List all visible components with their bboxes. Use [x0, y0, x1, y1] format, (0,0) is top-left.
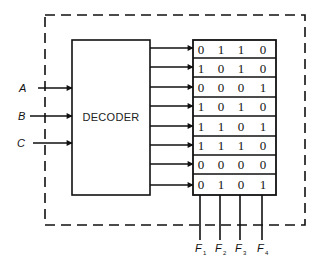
output-f3-letter: F — [235, 242, 243, 254]
rom-bit: 0 — [198, 80, 205, 95]
output-f1-letter: F — [195, 242, 203, 254]
output-f3: F 3 — [235, 242, 247, 256]
rom-bit: 0 — [260, 61, 267, 76]
rom-bit: 0 — [260, 99, 267, 114]
rom-bit: 0 — [198, 177, 205, 192]
rom-bit: 0 — [238, 157, 245, 172]
input-c-label: C — [17, 137, 25, 149]
decoder-rom-diagram: DECODER A B C — [0, 0, 323, 266]
output-f2-letter: F — [215, 242, 223, 254]
rom-bit: 0 — [260, 42, 267, 57]
rom-bit: 0 — [218, 61, 225, 76]
rom-bit: 0 — [218, 99, 225, 114]
input-b-label: B — [18, 110, 25, 122]
rom-bit: 0 — [260, 157, 267, 172]
rom-bit: 1 — [218, 138, 225, 153]
rom-bit: 1 — [198, 61, 205, 76]
output-f1: F 1 — [195, 242, 207, 256]
rom-bit: 1 — [198, 119, 205, 134]
output-f3-sub: 3 — [243, 250, 247, 256]
rom-bit: 0 — [198, 157, 205, 172]
rom-bit: 1 — [198, 99, 205, 114]
rom-bit: 1 — [238, 42, 245, 57]
rom-bit: 1 — [218, 119, 225, 134]
rom-bit: 1 — [198, 138, 205, 153]
rom-bit: 1 — [260, 177, 267, 192]
output-f2: F 2 — [215, 242, 227, 256]
decoder-output-lines — [150, 48, 193, 185]
rom-bit: 1 — [260, 80, 267, 95]
rom-bit: 1 — [218, 177, 225, 192]
rom-bit: 1 — [238, 99, 245, 114]
rom-bit: 0 — [218, 80, 225, 95]
input-a-label: A — [18, 82, 26, 94]
rom-bit: 0 — [218, 157, 225, 172]
rom-bit: 1 — [238, 61, 245, 76]
rom-bit: 0 — [260, 138, 267, 153]
rom-bit: 0 — [238, 80, 245, 95]
rom-bit: 0 — [238, 177, 245, 192]
rom-bit: 1 — [218, 42, 225, 57]
output-lines — [200, 195, 262, 240]
output-f1-sub: 1 — [203, 250, 207, 256]
decoder-label: DECODER — [82, 111, 139, 123]
rom-bit: 0 — [198, 42, 205, 57]
rom-bit: 1 — [260, 119, 267, 134]
output-f2-sub: 2 — [223, 250, 227, 256]
rom-bit: 0 — [238, 119, 245, 134]
output-f4-letter: F — [257, 242, 265, 254]
output-f4-sub: 4 — [265, 250, 269, 256]
output-f4: F 4 — [257, 242, 269, 256]
rom-bit: 1 — [238, 138, 245, 153]
rom-memory-array: 0 1 1 0 1 0 1 0 0 0 0 1 1 0 1 0 1 1 — [193, 40, 276, 195]
